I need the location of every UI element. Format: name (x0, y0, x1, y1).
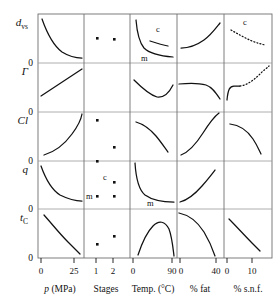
figure-panel-matrix: dvs Γ Cl q tC 0 0 0 0 0 c m c (0, 0, 278, 303)
axis-ticks (41, 258, 252, 263)
row-label-dvs: dvs (16, 16, 28, 31)
panel-dvs-temp: c m (136, 20, 173, 63)
series-label-c: c (103, 172, 107, 182)
zero-label-dvs: 0 (28, 58, 33, 68)
axis-label-temp: Temp. (°C) (132, 284, 175, 295)
zero-label-tc: 0 (28, 253, 33, 263)
tick-fat-40: 40 (212, 266, 222, 276)
panel-gamma-snf (227, 66, 269, 100)
panel-cl-snf (230, 124, 261, 154)
panel-cl-fat (181, 113, 219, 155)
zero-labels: 0 0 0 0 0 (28, 58, 33, 263)
zero-label-q: 0 (28, 204, 33, 214)
series-label-m: m (141, 53, 148, 63)
panel-dvs-pressure (42, 19, 82, 58)
tick-temp-0: 0 (131, 266, 136, 276)
series-label-c: c (243, 17, 247, 27)
data-point (96, 160, 99, 163)
panel-cl-pressure (44, 114, 82, 155)
axis-label-stages: Stages (94, 284, 119, 294)
column-axis-labels: p (MPa) Stages Temp. (°C) % fat % s.n.f. (43, 284, 262, 295)
data-point (113, 38, 116, 41)
panel-q-stages: c m (86, 160, 116, 201)
axis-label-pressure: p (MPa) (43, 284, 75, 295)
data-point (96, 243, 99, 246)
panel-gamma-temp (134, 80, 173, 97)
tick-pressure-25: 25 (70, 266, 80, 276)
data-point (113, 195, 116, 198)
panel-q-temp: m (135, 163, 174, 208)
axis-label-fat: % fat (190, 284, 211, 294)
tick-pressure-0: 0 (39, 266, 44, 276)
panel-gamma-pressure (41, 69, 82, 96)
zero-label-cl: 0 (28, 156, 33, 166)
panel-cl-temp (136, 122, 168, 152)
series-label-c: c (156, 24, 160, 34)
grid-frame (38, 14, 272, 258)
tick-snf-10: 10 (248, 266, 258, 276)
data-point (113, 181, 116, 184)
panel-q-pressure (41, 166, 82, 201)
panel-gamma-fat (179, 83, 220, 99)
tick-stages-2: 2 (111, 266, 116, 276)
tick-temp-90: 90 (168, 266, 178, 276)
panel-tc-stages (96, 235, 116, 246)
panel-q-fat (180, 170, 215, 202)
panel-dvs-stages (96, 37, 116, 41)
series-label-m: m (86, 191, 93, 201)
row-label-tc: tC (20, 211, 28, 226)
panel-tc-fat (179, 213, 215, 256)
panel-tc-snf (229, 219, 260, 251)
data-point (96, 37, 99, 40)
data-point (113, 235, 116, 238)
tick-snf-0: 0 (225, 266, 230, 276)
series-label-m: m (147, 198, 154, 208)
tick-fat-0: 0 (179, 266, 184, 276)
axis-label-snf: % s.n.f. (233, 284, 262, 294)
tick-stages-1: 1 (94, 266, 99, 276)
tick-labels: 0 25 1 2 0 90 0 40 0 10 (39, 266, 257, 276)
row-label-cl: Cl (18, 114, 28, 126)
panel-cl-stages (96, 119, 116, 149)
panel-tc-pressure (44, 215, 80, 254)
panel-tc-temp (138, 222, 174, 256)
data-point (96, 119, 99, 122)
data-point (96, 195, 99, 198)
zero-label-gamma: 0 (28, 107, 33, 117)
panel-dvs-snf: c (231, 17, 265, 45)
row-labels: dvs Γ Cl q tC (16, 16, 29, 226)
data-point (113, 146, 116, 149)
panel-dvs-fat (181, 23, 220, 48)
figure-svg: dvs Γ Cl q tC 0 0 0 0 0 c m c (0, 0, 278, 303)
